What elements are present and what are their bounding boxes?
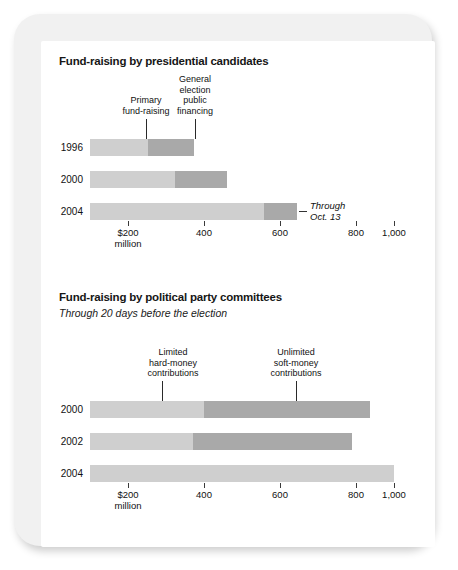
chart2-tick-label-600: 600 xyxy=(260,489,300,500)
chart2-bar-2004 xyxy=(90,465,400,482)
chart2-bar-2002-segment-soft xyxy=(193,433,352,450)
chart2-bar-2000-segment-soft xyxy=(204,401,370,418)
chart1-bar-2000 xyxy=(90,171,395,188)
chart2-callout-soft-money-line1: Unlimited xyxy=(248,347,344,358)
chart2-tick-1000 xyxy=(394,483,395,488)
chart2-bar-2002 xyxy=(90,433,400,450)
chart1-bar-2004-segment-primary xyxy=(90,203,264,220)
chart1-tick-label-400: 400 xyxy=(184,227,224,238)
chart2-callout-hard-money-line2: hard-money xyxy=(127,358,219,369)
chart2-tick-label-400: 400 xyxy=(184,489,224,500)
chart1-row-label-2004: 2004 xyxy=(47,203,83,220)
chart1-callout-general: General election public financing xyxy=(155,74,235,116)
chart2-row-label-2000: 2000 xyxy=(47,401,83,418)
chart2-tick-600 xyxy=(280,483,281,488)
chart1-bar-2004 xyxy=(90,203,395,220)
chart2-callout-soft-money: Unlimited soft-money contributions xyxy=(248,347,344,379)
chart1-tick-label-1000: 1,000 xyxy=(374,227,414,238)
chart1-tick-800 xyxy=(356,221,357,226)
chart2-axis-unit: million xyxy=(108,500,148,511)
chart2-callout-hard-money-line3: contributions xyxy=(127,368,219,379)
chart1-bar-note: Through Oct. 13 xyxy=(310,201,345,222)
chart2-subtitle: Through 20 days before the election xyxy=(59,307,227,319)
chart1-tick-label-800: 800 xyxy=(336,227,376,238)
chart2-title: Fund-raising by political party committe… xyxy=(59,291,282,303)
chart1-callout-general-line4: financing xyxy=(155,106,235,117)
chart2-callout-hard-money-leader xyxy=(162,381,163,401)
chart1-callout-general-line1: General xyxy=(155,74,235,85)
chart1-callout-general-leader xyxy=(195,119,196,139)
chart1-bar-2004-segment-general xyxy=(264,203,297,220)
chart1-tick-1000 xyxy=(394,221,395,226)
chart2-callout-soft-money-line3: contributions xyxy=(248,368,344,379)
chart2-callout-hard-money: Limited hard-money contributions xyxy=(127,347,219,379)
chart1-callout-primary-leader xyxy=(146,119,147,139)
chart2-row-label-2002: 2002 xyxy=(47,433,83,450)
chart1-title: Fund-raising by presidential candidates xyxy=(59,55,268,67)
chart1-bar-2000-segment-primary xyxy=(90,171,175,188)
chart1-row-label-1996: 1996 xyxy=(47,139,83,156)
chart-card: Fund-raising by presidential candidates … xyxy=(41,41,435,547)
chart1-row-label-2000: 2000 xyxy=(47,171,83,188)
chart2-tick-200 xyxy=(128,483,129,488)
chart2-callout-hard-money-line1: Limited xyxy=(127,347,219,358)
chart2-tick-400 xyxy=(204,483,205,488)
chart1-tick-400 xyxy=(204,221,205,226)
chart1-axis-unit: million xyxy=(108,238,148,249)
chart1-tick-200 xyxy=(128,221,129,226)
chart1-bar-1996 xyxy=(90,139,395,156)
chart2-bar-2000-segment-hard xyxy=(90,401,204,418)
chart2-tick-800 xyxy=(356,483,357,488)
chart2-tick-label-800: 800 xyxy=(336,489,376,500)
chart2-callout-soft-money-line2: soft-money xyxy=(248,358,344,369)
chart2-row-label-2004: 2004 xyxy=(47,465,83,482)
chart1-tick-600 xyxy=(280,221,281,226)
chart1-bar-2000-segment-general xyxy=(175,171,227,188)
chart1-callout-general-line2: election xyxy=(155,85,235,96)
chart2-bar-2000 xyxy=(90,401,400,418)
chart2-bar-2002-segment-hard xyxy=(90,433,193,450)
chart1-bar-note-line2: Oct. 13 xyxy=(310,212,345,223)
chart1-bar-note-line1: Through xyxy=(310,201,345,212)
chart2-bar-2004-segment-hard xyxy=(90,465,394,482)
chart2-callout-soft-money-leader xyxy=(296,381,297,401)
chart1-bar-1996-segment-primary xyxy=(90,139,148,156)
chart1-tick-label-200: $200 xyxy=(108,227,148,238)
chart2-tick-label-200: $200 xyxy=(108,489,148,500)
chart1-callout-general-line3: public xyxy=(155,95,235,106)
outer-panel: Fund-raising by presidential candidates … xyxy=(14,14,432,546)
chart1-bar-note-dash xyxy=(299,211,307,212)
chart1-bar-1996-segment-general xyxy=(148,139,194,156)
chart2-tick-label-1000: 1,000 xyxy=(374,489,414,500)
chart1-tick-label-600: 600 xyxy=(260,227,300,238)
